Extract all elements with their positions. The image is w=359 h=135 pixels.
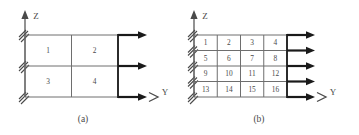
panel-b-cell-7: 7 (250, 54, 254, 63)
panel-b-support-hatching (188, 30, 198, 104)
panel-b-cell-4: 4 (274, 38, 278, 47)
panel-b-cell-2: 2 (227, 38, 231, 47)
panel-b-z-axis-label: Z (202, 11, 208, 21)
panel-b: Z (180, 0, 359, 135)
panel-a-caption: (a) (78, 114, 89, 125)
panel-b-cell-11: 11 (249, 69, 256, 78)
load-arrow (287, 78, 315, 86)
panel-b-cell-13: 13 (202, 85, 210, 94)
panel-a-cell-1: 1 (46, 46, 50, 55)
panel-b-y-axis-label: Y (330, 87, 337, 97)
load-arrow (287, 31, 315, 39)
load-arrow (287, 93, 315, 101)
load-arrow (118, 93, 147, 101)
panel-a: Z (0, 0, 180, 135)
panel-a-load-arrows (118, 31, 147, 101)
panel-b-cell-10: 10 (225, 69, 233, 78)
panel-b-cell-3: 3 (250, 38, 254, 47)
panel-b-cell-9: 9 (204, 69, 208, 78)
load-arrow (287, 62, 315, 70)
panel-a-cell-2: 2 (93, 46, 97, 55)
panel-b-cell-12: 12 (272, 69, 280, 78)
panel-b-cell-14: 14 (225, 85, 233, 94)
panel-a-cell-4: 4 (93, 77, 97, 86)
panel-b-cell-5: 5 (204, 54, 208, 63)
load-arrow (118, 31, 147, 39)
panel-b-y-axis (317, 93, 326, 102)
panel-a-support-hatching (19, 30, 29, 104)
panel-a-z-axis-label: Z (33, 11, 39, 21)
panel-b-caption: (b) (253, 114, 264, 125)
panel-b-cell-15: 15 (248, 85, 256, 94)
panel-b-cell-8: 8 (274, 54, 278, 63)
panel-b-cell-16: 16 (272, 85, 280, 94)
panel-a-y-axis-label: Y (162, 87, 169, 97)
figure-root: Z (0, 0, 359, 135)
load-arrow (118, 62, 147, 70)
panel-a-grid (25, 35, 118, 97)
panel-a-cell-3: 3 (46, 77, 50, 86)
panel-b-load-arrows (287, 31, 315, 101)
load-arrow (287, 47, 315, 55)
panel-b-cell-1: 1 (204, 38, 208, 47)
panel-b-cell-6: 6 (227, 54, 231, 63)
panel-a-y-axis (149, 93, 158, 102)
